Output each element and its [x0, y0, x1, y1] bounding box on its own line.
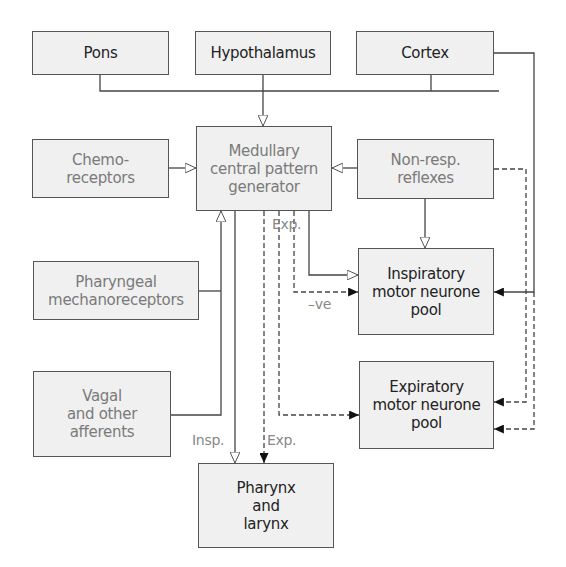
node-pharyngeal-mechanoreceptors: Pharyngeal mechanoreceptors [33, 261, 199, 320]
node-cortex: Cortex [356, 31, 494, 75]
node-chemoreceptors-line-2: receptors [66, 169, 134, 187]
node-inspiratory-pool: Inspiratory motor neurone pool [358, 248, 494, 335]
label-exp-lower: Exp. [267, 432, 296, 448]
node-nonresp-line-1: Non-resp. [391, 151, 461, 169]
node-nonresp-line-2: reflexes [397, 169, 454, 187]
node-cortex-label: Cortex [401, 44, 449, 62]
node-inspiratory-line-2: motor neurone [372, 283, 480, 301]
edge-cortex-inspiratory [494, 53, 534, 292]
respiratory-control-diagram: Pons Hypothalamus Cortex Medullary centr… [0, 0, 566, 567]
edge-cpg-expiratory [279, 211, 359, 415]
node-vagal-line-3: afferents [70, 423, 135, 441]
node-expiratory-line-1: Expiratory [389, 378, 464, 396]
node-vagal-afferents: Vagal and other afferents [33, 371, 171, 457]
edge-cpg-inspiratory [309, 211, 358, 275]
node-hypothalamus-label: Hypothalamus [210, 44, 315, 62]
node-pharyngeal-line-1: Pharyngeal [75, 273, 156, 291]
node-pons-label: Pons [84, 44, 118, 62]
edge-nonresp-expiratory [494, 169, 526, 402]
node-cpg-line-2: central pattern [210, 160, 318, 178]
node-pons: Pons [32, 31, 169, 75]
node-inspiratory-line-3: pool [411, 301, 442, 319]
node-inspiratory-line-1: Inspiratory [387, 265, 465, 283]
node-vagal-line-1: Vagal [82, 387, 122, 405]
node-cpg-line-3: generator [228, 178, 299, 196]
label-negative: –ve [308, 296, 331, 312]
edge-cortex-expiratory [494, 292, 534, 429]
node-pharyngeal-line-2: mechanoreceptors [48, 291, 184, 309]
node-cpg-line-1: Medullary [228, 142, 299, 160]
edge-pons-cpg [100, 75, 499, 91]
node-chemoreceptors: Chemo- receptors [32, 139, 169, 198]
node-medullary-cpg: Medullary central pattern generator [196, 126, 332, 211]
node-pharynx-line-3: larynx [244, 515, 289, 533]
node-vagal-line-2: and other [67, 405, 137, 423]
node-pharynx-line-2: and [252, 497, 279, 515]
label-insp-lower: Insp. [192, 432, 224, 448]
node-expiratory-line-2: motor neurone [373, 396, 481, 414]
node-pharynx-line-1: Pharynx [236, 479, 295, 497]
node-hypothalamus: Hypothalamus [195, 31, 331, 75]
node-pharynx-larynx: Pharynx and larynx [198, 463, 334, 548]
node-nonresp-reflexes: Non-resp. reflexes [357, 139, 494, 199]
node-chemoreceptors-line-1: Chemo- [72, 151, 129, 169]
label-exp-upper: Exp. [272, 216, 301, 232]
edge-cpg-inspiratory-neg [294, 211, 358, 292]
node-expiratory-pool: Expiratory motor neurone pool [359, 361, 494, 449]
node-expiratory-line-3: pool [411, 414, 442, 432]
